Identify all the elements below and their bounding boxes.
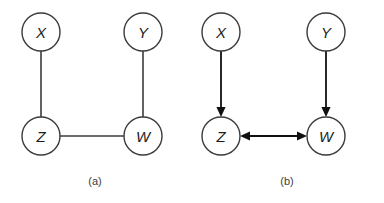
panel-a-edges bbox=[41, 51, 143, 136]
panel-b: XYZW(b) bbox=[202, 13, 345, 187]
node-panel-a-W[interactable]: W bbox=[124, 117, 162, 155]
node-panel-a-Z[interactable]: Z bbox=[22, 117, 60, 155]
node-label-Z: Z bbox=[215, 128, 226, 145]
figure-root: XYZW(a)XYZW(b) bbox=[0, 0, 384, 203]
arrowhead-forward-Z<->W bbox=[297, 131, 307, 140]
node-panel-b-Z[interactable]: Z bbox=[202, 117, 240, 155]
node-panel-a-X[interactable]: X bbox=[22, 13, 60, 51]
panel-b-nodes: XYZW bbox=[202, 13, 345, 155]
node-panel-b-W[interactable]: W bbox=[307, 117, 345, 155]
node-panel-a-Y[interactable]: Y bbox=[124, 13, 162, 51]
node-label-Y: Y bbox=[321, 24, 332, 41]
node-label-Y: Y bbox=[138, 24, 149, 41]
node-panel-b-Y[interactable]: Y bbox=[307, 13, 345, 51]
edge-Z<->W bbox=[240, 131, 307, 140]
panel-a-nodes: XYZW bbox=[22, 13, 162, 155]
panel-a: XYZW(a) bbox=[22, 13, 162, 187]
edge-X->Z bbox=[216, 51, 225, 117]
node-panel-b-X[interactable]: X bbox=[202, 13, 240, 51]
node-label-W: W bbox=[319, 128, 335, 145]
arrowhead-X->Z bbox=[216, 107, 225, 117]
node-label-W: W bbox=[136, 128, 152, 145]
causal-graph-figure: XYZW(a)XYZW(b) bbox=[0, 0, 384, 203]
node-label-X: X bbox=[215, 24, 227, 41]
arrowhead-Y->W bbox=[321, 107, 330, 117]
panel-caption-panel-b: (b) bbox=[280, 175, 293, 187]
panel-caption-panel-a: (a) bbox=[88, 175, 101, 187]
node-label-Z: Z bbox=[35, 128, 46, 145]
arrowhead-backward-Z<->W bbox=[240, 131, 250, 140]
node-label-X: X bbox=[35, 24, 47, 41]
edge-Y->W bbox=[321, 51, 330, 117]
